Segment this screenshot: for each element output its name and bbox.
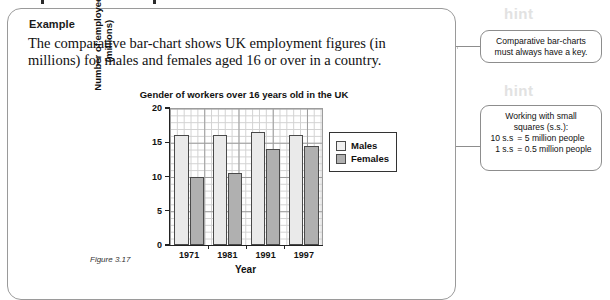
small-squares-row: 1 s.s = 0.5 million people	[490, 144, 591, 155]
hint-connector-1	[456, 46, 480, 47]
x-tick-label-1971: 1971	[179, 250, 199, 260]
bar-chart: Gender of workers over 16 years old in t…	[108, 89, 408, 295]
y-axis-title-line2: (millions)	[103, 0, 114, 109]
y-axis-title-line1: Number of employees	[92, 0, 103, 109]
hint-bubble-1: Comparative bar-charts must always have …	[480, 30, 602, 63]
hint-bubble-2: Working with small squares (s.s.): 10 s.…	[480, 105, 602, 171]
bar-females-1997	[304, 146, 318, 245]
plot-area: 05101520 1971198119911997	[169, 108, 323, 246]
ss-row1-left: 1 s.s	[490, 144, 517, 155]
bar-males-1997	[289, 135, 303, 245]
y-tick	[165, 210, 170, 211]
y-axis-title: Number of employees (millions)	[92, 0, 106, 109]
x-tick-label-1991: 1991	[256, 250, 276, 260]
ss-row1-right: = 0.5 million people	[517, 144, 591, 155]
y-tick-label-20: 20	[152, 103, 162, 113]
y-tick	[165, 176, 170, 177]
x-tick	[284, 245, 285, 249]
hint2-title-line1: Working with small	[487, 111, 595, 122]
x-tick-label-1981: 1981	[217, 250, 237, 260]
legend-item-females: Females	[336, 153, 390, 164]
bar-females-1981	[228, 173, 242, 245]
figure-caption: Figure 3.17	[90, 255, 130, 264]
y-tick	[165, 107, 170, 108]
small-squares-row: 10 s.s = 5 million people	[490, 133, 591, 144]
bar-group	[170, 108, 323, 245]
y-tick-label-5: 5	[157, 206, 162, 216]
hint2-title-line2: squares (s.s.):	[487, 122, 595, 133]
x-axis-title: Year	[169, 264, 322, 275]
y-tick-label-15: 15	[152, 137, 162, 147]
chart-legend: Males Females	[329, 132, 397, 172]
hint-connector-2	[456, 146, 480, 147]
legend-item-males: Males	[336, 140, 390, 151]
bar-females-1971	[190, 177, 204, 246]
legend-label-females: Females	[351, 153, 389, 164]
small-squares-table: 10 s.s = 5 million people 1 s.s = 0.5 mi…	[490, 133, 591, 155]
hint-heading-1: hint	[504, 5, 534, 22]
legend-label-males: Males	[351, 140, 377, 151]
y-tick	[165, 244, 170, 245]
ss-row0-right: = 5 million people	[517, 133, 591, 144]
ss-row0-left: 10 s.s	[490, 133, 517, 144]
y-tick-label-10: 10	[152, 172, 162, 182]
x-tick	[246, 245, 247, 249]
x-tick-label-1997: 1997	[294, 250, 314, 260]
bar-males-1971	[174, 135, 188, 245]
legend-swatch-males	[336, 141, 346, 151]
y-tick-label-0: 0	[157, 240, 162, 250]
legend-swatch-females	[336, 154, 346, 164]
x-tick	[208, 245, 209, 249]
bar-males-1991	[251, 132, 265, 245]
bar-females-1991	[266, 149, 280, 245]
hint-heading-2: hint	[504, 82, 534, 99]
example-card: Example The comparative bar-chart shows …	[7, 8, 456, 300]
example-body-text: The comparative bar-chart shows UK emplo…	[28, 35, 438, 69]
example-heading: Example	[29, 18, 75, 30]
chart-title: Gender of workers over 16 years old in t…	[108, 89, 380, 100]
y-tick	[165, 142, 170, 143]
bar-males-1981	[213, 135, 227, 245]
